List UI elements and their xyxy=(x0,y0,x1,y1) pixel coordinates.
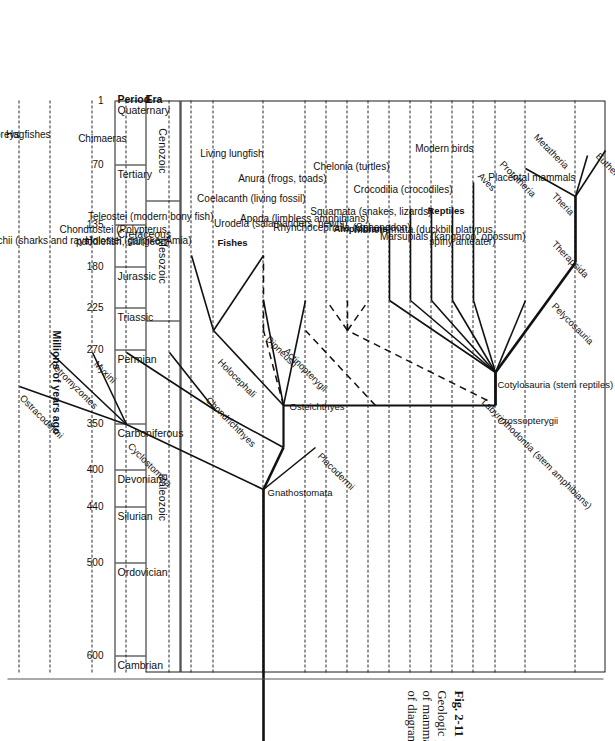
axis-tick-label: 1 xyxy=(97,95,103,106)
time-axis xyxy=(114,100,115,672)
clade-label: Gnathostomata xyxy=(267,486,332,497)
axis-grid-tick xyxy=(115,266,145,267)
period-label: Cambrian xyxy=(117,658,163,670)
era-cell: Cenozoic xyxy=(146,101,179,201)
tip-label: Living lungfish xyxy=(200,148,263,160)
tip-label: Urodela (salamanders, newts) xyxy=(214,218,347,230)
period-label: Silurian xyxy=(117,509,152,521)
tip-label: Modern birds xyxy=(415,143,473,155)
period-label: Permian xyxy=(117,352,156,364)
figure-caption-text: Geologic periods in which vertebrate fos… xyxy=(404,690,448,741)
group-label: Reptiles xyxy=(427,204,464,215)
axis-grid-tick xyxy=(115,423,145,424)
period-header: Period xyxy=(117,92,150,104)
axis-grid-tick xyxy=(115,562,145,563)
tip-label: Selachii (sharks and rays) xyxy=(0,235,92,247)
group-label: Fishes xyxy=(217,236,247,247)
period-label: Tertiary xyxy=(117,167,151,179)
clade-label: Osteichthyes xyxy=(289,400,344,411)
period-label: Triassic xyxy=(117,310,153,322)
period-label: Carboniferous xyxy=(117,426,183,438)
era-cell: Mesozoic xyxy=(146,201,179,321)
tip-label: Chimaeras xyxy=(78,133,126,145)
axis-grid-tick xyxy=(115,469,145,470)
era-row: Cenozoic Mesozoic Paleozoic xyxy=(145,100,180,672)
era-label: Mesozoic xyxy=(157,238,169,284)
axis-tick-label: 400 xyxy=(86,464,103,475)
axis-tick-label: 500 xyxy=(86,557,103,568)
group-label: Amphibians xyxy=(333,222,387,233)
axis-tick-label: 180 xyxy=(86,261,103,272)
axis-grid-tick xyxy=(115,164,145,165)
axis-tick-label: 350 xyxy=(86,418,103,429)
figure-caption: Fig. 2-11 Geologic periods in which vert… xyxy=(403,690,465,741)
axis-tick-label: 135 xyxy=(86,219,103,230)
clade-label: Crossopterygii xyxy=(497,414,558,425)
tip-label: Placental mammals xyxy=(488,172,575,184)
axis-tick-label: 600 xyxy=(86,650,103,661)
tip-label: Crocodilia (crocodiles) xyxy=(353,183,452,195)
tip-label-text: Selachii (sharks and rays) xyxy=(0,235,92,246)
axis-grid-tick xyxy=(115,506,145,507)
axis-grid-tick xyxy=(115,655,145,656)
tip-label: Chelonia (turtles) xyxy=(313,161,389,173)
tip-label: Anura (frogs, toads) xyxy=(238,173,326,185)
tip-label: Lampreys xyxy=(0,128,19,140)
axis-tick-label: 440 xyxy=(86,501,103,512)
era-label: Cenozoic xyxy=(157,128,169,173)
period-label: Cretaceous xyxy=(117,227,171,239)
period-label: Jurassic xyxy=(117,269,156,281)
figure-canvas: Placental mammals Marsupials (kangaroo, … xyxy=(0,0,615,741)
era-cell: Paleozoic xyxy=(146,321,179,673)
clade-label: Cotylosauria (stem reptiles) xyxy=(497,378,613,389)
period-label: Devonian xyxy=(117,472,161,484)
figure-number: Fig. 2-11 xyxy=(450,690,465,741)
axis-title: Millions of years ago xyxy=(50,330,62,434)
axis-grid-tick xyxy=(115,224,145,225)
axis-tick-label: 70 xyxy=(92,159,103,170)
axis-tick-label: 270 xyxy=(86,344,103,355)
axis-tick-label: 225 xyxy=(86,302,103,313)
tip-label: Coelacanth (living fossil) xyxy=(197,193,305,205)
period-label: Quaternary xyxy=(117,103,170,115)
axis-grid-tick xyxy=(115,307,145,308)
axis-grid-tick xyxy=(115,100,145,101)
axis-grid-tick xyxy=(115,349,145,350)
caption-divider xyxy=(7,678,603,679)
period-label: Ordovician xyxy=(117,565,167,577)
